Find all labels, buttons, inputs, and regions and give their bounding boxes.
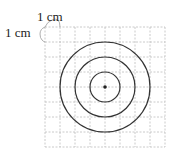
diagram-canvas: 1 cm 1 cm [0,0,174,163]
vertical-scale-brace [40,27,45,42]
center-point [103,85,107,89]
horizontal-scale-label: 1 cm [37,9,63,24]
vertical-scale-label: 1 cm [5,25,31,40]
